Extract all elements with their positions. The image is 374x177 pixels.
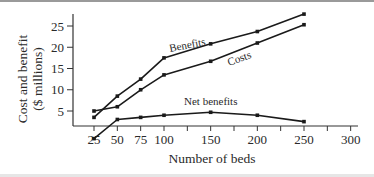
series-label-net-benefits: Net benefits	[184, 95, 237, 107]
x-ticks: 255075100150200250300	[88, 126, 361, 147]
x-tick-label: 200	[248, 132, 268, 147]
y-ticks: 510152025	[51, 19, 73, 119]
data-point-benefits	[116, 94, 120, 98]
x-tick-label: 100	[154, 132, 174, 147]
series-label-costs: Costs	[226, 48, 253, 68]
data-point-costs	[139, 88, 143, 92]
x-axis-title: Number of beds	[169, 151, 256, 166]
data-point-costs	[302, 23, 306, 27]
data-point-costs	[162, 73, 166, 77]
y-tick-label: 15	[51, 61, 64, 76]
data-point-benefits	[256, 30, 260, 34]
data-point-net-benefits	[209, 110, 213, 114]
data-point-net-benefits	[302, 120, 306, 124]
data-point-net-benefits	[92, 137, 96, 141]
data-point-benefits	[302, 12, 306, 16]
data-point-benefits	[92, 116, 96, 120]
y-tick-label: 10	[51, 82, 64, 97]
y-tick-label: 25	[51, 19, 64, 34]
x-tick-label: 50	[111, 132, 124, 147]
y-axis-title-line2: ($ millions)	[30, 47, 45, 110]
x-tick-label: 75	[134, 132, 147, 147]
data-point-net-benefits	[116, 118, 120, 122]
x-tick-label: 300	[341, 132, 361, 147]
x-tick-label: 250	[294, 132, 314, 147]
data-point-costs	[256, 41, 260, 45]
data-point-net-benefits	[139, 116, 143, 120]
data-point-benefits	[209, 42, 213, 46]
series-points	[92, 12, 306, 140]
data-point-costs	[209, 59, 213, 63]
axes	[73, 14, 358, 126]
data-point-net-benefits	[256, 113, 260, 117]
data-point-net-benefits	[162, 113, 166, 117]
x-tick-label: 150	[201, 132, 221, 147]
data-point-benefits	[162, 56, 166, 60]
bottom-border	[0, 174, 374, 177]
y-axis-title-line1: Cost and benefit	[15, 35, 30, 124]
data-point-costs	[92, 109, 96, 113]
y-tick-label: 20	[51, 40, 64, 55]
series-lines	[94, 14, 304, 139]
line-chart: 510152025 255075100150200250300 Number o…	[0, 0, 374, 177]
y-tick-label: 5	[58, 104, 65, 119]
data-point-costs	[116, 105, 120, 109]
data-point-benefits	[139, 77, 143, 81]
